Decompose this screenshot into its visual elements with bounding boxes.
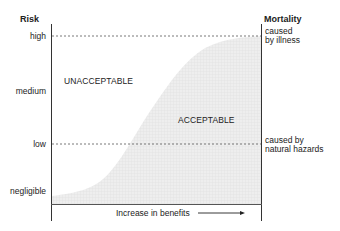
natural-annotation-line2: natural hazards <box>265 144 324 154</box>
y-tick-negligible: negligible <box>0 186 46 196</box>
mortality-axis-title: Mortality <box>264 14 302 24</box>
acceptable-region-label: ACCEPTABLE <box>178 115 235 125</box>
benefits-arrow-icon <box>240 211 245 215</box>
illness-annotation-line2: by illness <box>265 35 300 45</box>
y-tick-high: high <box>0 31 46 41</box>
y-tick-low: low <box>0 139 46 149</box>
x-axis-label: Increase in benefits <box>116 208 190 218</box>
risk-axis-title: Risk <box>20 14 39 24</box>
y-tick-medium: medium <box>0 86 46 96</box>
risk-benefit-diagram: Risk Mortality high medium low negligibl… <box>0 0 340 231</box>
unacceptable-region-label: UNACCEPTABLE <box>64 76 133 86</box>
